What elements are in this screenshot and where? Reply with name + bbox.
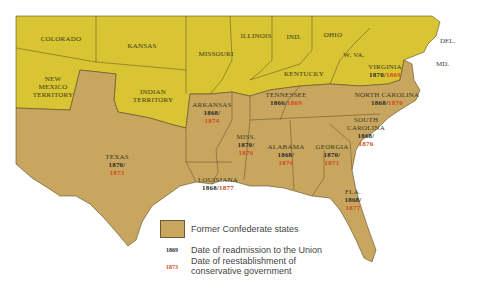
state-label-new-mexico-territory: NEW MEXICO TERRITORY xyxy=(33,75,74,99)
state-label-illinois: ILLINOIS xyxy=(240,32,271,40)
state-label-florida: FLA. 1868/ 1877 xyxy=(345,188,362,212)
legend-conservative-label: Date of reestablishment of conservative … xyxy=(191,256,296,276)
reconstruction-map: COLORADO KANSAS MISSOURI ILLINOIS IND. O… xyxy=(0,0,479,288)
state-label-alabama: ALABAMA 1868/ 1874 xyxy=(268,143,305,167)
state-label-tennessee: TENNESSEE 1866/1869 xyxy=(265,91,306,107)
state-label-colorado: COLORADO xyxy=(41,35,82,43)
state-label-indiana: IND. xyxy=(287,33,302,41)
state-label-louisiana: LOUISIANA 1868/1877 xyxy=(198,176,238,192)
legend-conservative-sample: 1873 xyxy=(166,264,178,270)
legend-readmission-sample: 1869 xyxy=(166,247,178,253)
state-label-kentucky: KENTUCKY xyxy=(284,70,324,78)
state-label-west-virginia: W. VA. xyxy=(343,51,365,59)
state-label-missouri: MISSOURI xyxy=(198,50,233,58)
state-label-indian-territory: INDIAN TERRITORY xyxy=(133,88,174,104)
state-label-north-carolina: NORTH CAROLINA 1868/1870 xyxy=(355,91,419,107)
state-label-delaware: DEL. xyxy=(440,37,455,45)
state-label-ohio: OHIO xyxy=(324,31,342,39)
state-label-texas: TEXAS 1870/ 1873 xyxy=(105,153,129,177)
confederate-swatch xyxy=(160,220,185,238)
legend-readmission-label: Date of readmission to the Union xyxy=(191,245,322,255)
state-label-mississippi: MISS. 1870/ 1876 xyxy=(236,133,255,157)
state-label-maryland: MD. xyxy=(436,60,449,68)
state-label-arkansas: ARKANSAS 1868/ 1874 xyxy=(192,101,231,125)
state-label-georgia: GEORGIA 1870/ 1871 xyxy=(316,143,349,167)
state-label-south-carolina: SOUTH CAROLINA 1868/ 1876 xyxy=(347,116,385,148)
state-label-virginia: VIRGINIA 1870/1869 xyxy=(368,63,401,79)
state-label-kansas: KANSAS xyxy=(127,42,156,50)
legend-confederate-label: Former Confederate states xyxy=(191,224,299,234)
